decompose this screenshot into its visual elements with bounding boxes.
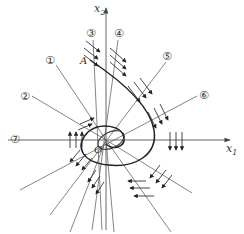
x2-axis-label: x2 [94, 2, 105, 17]
trajectory-curve [81, 60, 154, 165]
point-a-label: A [79, 55, 87, 66]
isocline-label-4: ④ [114, 27, 124, 40]
isocline-label-3: ③ [86, 27, 96, 40]
x1-axis-label: x1 [226, 142, 237, 157]
isocline-labels: ① ② ③ ④ ⑤ ⑥ ⑦ [10, 27, 209, 146]
isocline-label-1: ① [45, 54, 55, 67]
isocline-label-2: ② [20, 90, 30, 103]
phase-plane-diagram: ① ② ③ ④ ⑤ ⑥ ⑦ [0, 0, 244, 234]
origin-label: O [94, 144, 102, 155]
axes [8, 8, 230, 230]
isocline-label-7: ⑦ [10, 133, 20, 146]
isocline-label-5: ⑤ [162, 50, 172, 63]
isocline-label-6: ⑥ [199, 89, 209, 102]
